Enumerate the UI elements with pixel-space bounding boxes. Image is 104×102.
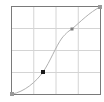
white-point-handle[interactable] (98, 5, 102, 9)
black-point-handle[interactable] (10, 92, 14, 96)
highlight-control-point-handle[interactable] (71, 28, 74, 31)
curves-editor[interactable] (0, 0, 104, 102)
shadow-control-point-handle[interactable] (41, 70, 45, 74)
curves-canvas[interactable] (0, 0, 104, 102)
